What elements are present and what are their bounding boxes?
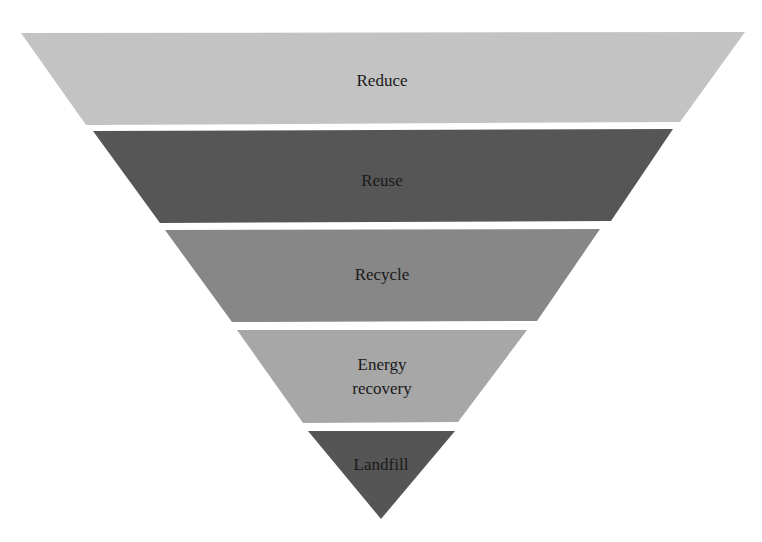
label-energy-recovery-line-2: recovery [352,379,412,398]
band-energy-recovery [237,330,527,423]
label-reuse-line-1: Reuse [361,171,403,190]
band-landfill [308,431,455,519]
level-recycle: Recycle [165,229,600,322]
level-reduce: Reduce [21,32,745,125]
label-landfill-line-1: Landfill [354,455,409,474]
level-landfill: Landfill [308,431,455,519]
waste-hierarchy-pyramid: Reduce Reuse Recycle Energy recovery Lan… [0,0,762,542]
label-recycle-line-1: Recycle [355,265,410,284]
label-energy-recovery-line-1: Energy [358,355,407,374]
level-energy-recovery: Energy recovery [237,330,527,423]
level-reuse: Reuse [93,129,673,223]
label-reduce-line-1: Reduce [357,71,408,90]
